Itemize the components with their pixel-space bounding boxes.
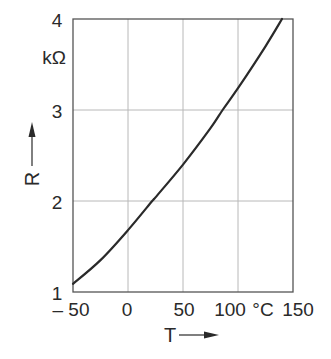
y-tick-label-3: 3 <box>52 101 63 122</box>
chart: 4 3 2 1 kΩ – 50 0 50 100 °C 150 R T <box>0 0 331 359</box>
resistance-curve <box>73 19 282 284</box>
x-tick-label-0: 0 <box>122 299 133 320</box>
y-unit-label: kΩ <box>42 47 66 68</box>
y-tick-label-2: 2 <box>52 192 63 213</box>
y-axis-arrow-icon <box>29 122 36 166</box>
x-tick-label-150: 150 <box>282 299 314 320</box>
x-axis-arrow-icon <box>179 332 219 339</box>
x-tick-label-neg50: – 50 <box>53 299 90 320</box>
y-tick-label-4: 4 <box>52 10 63 31</box>
x-axis-label: T <box>164 324 176 346</box>
x-tick-label-100: 100 <box>214 299 246 320</box>
x-unit-label: °C <box>252 299 273 320</box>
grid <box>73 19 293 292</box>
x-tick-label-50: 50 <box>173 299 194 320</box>
y-axis-label: R <box>21 172 43 186</box>
